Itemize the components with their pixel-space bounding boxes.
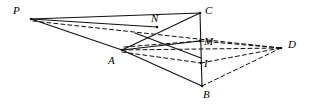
geometry-figure: PANCMIBD [0,0,311,105]
vertex-point-D [280,47,283,50]
vertex-point-I [200,62,203,65]
vertex-label-B: B [203,89,210,100]
vertex-point-A [121,49,124,52]
segment-P-D [33,21,281,48]
vertex-point-C [199,12,202,15]
vertex-point-M [199,40,202,43]
dashed-line-group [33,21,281,86]
segment-P-C [31,13,200,19]
vertex-label-C: C [205,5,212,16]
segment-B-D [202,48,281,86]
vertex-point-B [201,85,204,88]
vertex-point-N [156,26,159,29]
vertex-point-P [30,18,33,21]
vertex-label-M: M [204,36,213,47]
vertex-label-I: I [204,58,208,69]
vertex-label-N: N [151,13,158,24]
vertex-label-D: D [288,39,296,50]
segment-A-B [122,50,202,86]
segment-I-D [201,48,281,63]
vertex-label-A: A [108,55,115,66]
vertex-label-P: P [13,5,20,16]
